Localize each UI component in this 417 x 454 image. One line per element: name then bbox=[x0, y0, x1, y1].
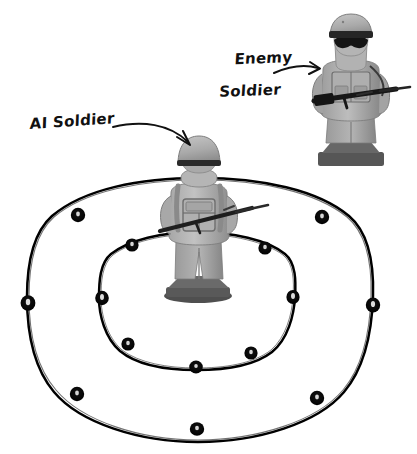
ai-soldier-helmet-band bbox=[177, 160, 221, 166]
waypoint-node[interactable] bbox=[315, 210, 329, 224]
waypoint-node[interactable] bbox=[71, 208, 85, 222]
sketch-scene bbox=[0, 0, 417, 454]
enemy-soldier-label: Enemy Soldier bbox=[208, 33, 294, 133]
waypoint-node[interactable] bbox=[125, 238, 138, 251]
waypoint-node[interactable] bbox=[190, 422, 204, 436]
arrow-to-ai-soldier bbox=[113, 124, 190, 145]
enemy-soldier-helmet-stud bbox=[342, 21, 344, 23]
waypoint-node[interactable] bbox=[21, 295, 36, 311]
enemy-soldier-figure[interactable] bbox=[312, 14, 410, 166]
waypoint-node[interactable] bbox=[310, 391, 324, 405]
waypoint-node[interactable] bbox=[286, 290, 299, 304]
waypoint-node[interactable] bbox=[95, 291, 109, 305]
ai-soldier-backpack-pocket bbox=[186, 202, 212, 211]
ai-soldier-strap-left bbox=[177, 186, 179, 230]
waypoint-node[interactable] bbox=[244, 346, 257, 359]
enemy-soldier-label-line1: Enemy bbox=[234, 48, 293, 68]
diagram-canvas: Enemy Soldier AI Soldier bbox=[0, 0, 417, 454]
waypoint-node[interactable] bbox=[70, 387, 84, 401]
waypoint-node[interactable] bbox=[189, 361, 203, 374]
waypoint-node[interactable] bbox=[366, 297, 380, 312]
enemy-soldier-stand bbox=[318, 152, 384, 166]
enemy-soldier-label-line2: Soldier bbox=[219, 81, 291, 100]
enemy-soldier-helmet-band bbox=[329, 31, 373, 38]
ai-soldier-strap-right bbox=[220, 186, 222, 230]
waypoint-node[interactable] bbox=[258, 241, 271, 254]
waypoint-node[interactable] bbox=[121, 337, 134, 350]
ai-soldier-figure[interactable] bbox=[160, 136, 268, 303]
ai-soldier-helmet bbox=[178, 136, 220, 164]
enemy-soldier-arm-left bbox=[312, 74, 323, 114]
ai-soldier-stand bbox=[166, 287, 230, 297]
